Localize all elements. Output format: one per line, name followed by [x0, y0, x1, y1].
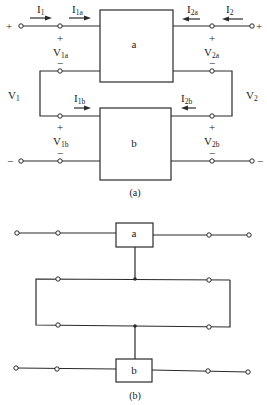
terminal [247, 233, 251, 237]
terminal [210, 69, 214, 73]
sign-minus-port1: − [7, 155, 13, 167]
terminal [250, 24, 254, 28]
sign-minus-port2: − [257, 155, 263, 167]
box-b-label: b [131, 364, 137, 376]
terminal [210, 114, 214, 118]
sign-minus: − [57, 57, 63, 69]
junction-dot [133, 324, 137, 328]
label-I1a: I1a [72, 3, 83, 17]
terminal [55, 367, 59, 371]
figure-b: a b (b) [14, 223, 251, 402]
terminal [19, 159, 23, 163]
label-V2: V2 [246, 89, 258, 103]
wire-bottom [152, 370, 248, 372]
figure-a: a b [6, 3, 263, 199]
caption-a: (a) [129, 187, 140, 199]
arrow-left-icon [182, 17, 200, 22]
terminal [210, 159, 214, 163]
two-port-series-connection-diagram: a b [0, 0, 267, 405]
terminal [58, 24, 62, 28]
wire-bottom [16, 368, 116, 369]
terminal [210, 24, 214, 28]
sign-minus: − [57, 147, 63, 159]
terminal [19, 24, 23, 28]
terminal [246, 370, 250, 374]
box-b-label: b [131, 137, 137, 149]
terminal [15, 231, 19, 235]
arrow-left-icon [181, 106, 196, 111]
terminal [56, 323, 60, 327]
sign-plus: + [57, 121, 63, 133]
sign-plus: + [209, 121, 215, 133]
two-port-a-box [100, 10, 173, 82]
sign-plus: + [57, 32, 63, 44]
label-V1: V1 [8, 89, 20, 103]
sign-plus-port1: + [6, 20, 12, 32]
wire-middle-loop [36, 279, 230, 327]
terminal [56, 231, 60, 235]
terminal [207, 233, 211, 237]
terminal [206, 369, 210, 373]
terminal [56, 277, 60, 281]
label-I1: I1 [37, 3, 45, 17]
wire-left-loop [40, 71, 100, 116]
sign-plus: + [209, 32, 215, 44]
label-I2: I2 [226, 3, 234, 17]
terminal [58, 69, 62, 73]
terminal [250, 159, 254, 163]
terminal [58, 114, 62, 118]
sign-minus: − [209, 147, 215, 159]
terminal [14, 366, 18, 370]
sign-minus: − [209, 57, 215, 69]
terminal [207, 325, 211, 329]
box-a-label: a [132, 227, 137, 239]
caption-b: (b) [129, 390, 141, 402]
label-I2a: I2a [187, 3, 198, 17]
arrow-right-icon [74, 106, 91, 111]
terminal [58, 159, 62, 163]
sign-plus-port2: + [256, 20, 262, 32]
label-I1b: I1b [74, 92, 85, 106]
terminal [207, 278, 211, 282]
junction-dot [133, 277, 137, 281]
label-I2b: I2b [181, 92, 192, 106]
arrow-left-icon [222, 17, 243, 22]
box-a-label: a [132, 38, 137, 50]
